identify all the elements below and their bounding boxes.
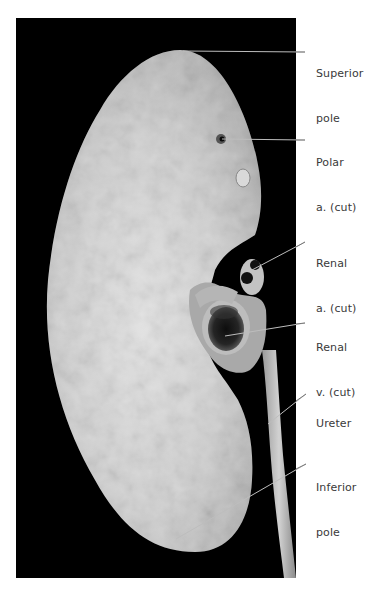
renal-artery-lumen-2 [241,272,253,284]
leader-line-ends [296,52,306,469]
label-inferior-pole: Inferior pole [316,450,357,570]
anatomy-figure: Superior pole Polar a. (cut) Renal a. (c… [0,0,373,589]
